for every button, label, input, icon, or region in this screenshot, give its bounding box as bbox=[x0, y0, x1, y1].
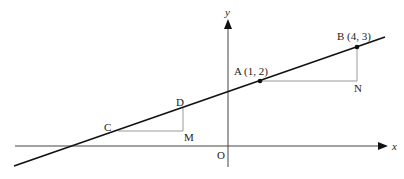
point-B bbox=[355, 45, 360, 50]
x-axis-label: x bbox=[391, 140, 397, 152]
point-B-label: B (4, 3) bbox=[337, 30, 371, 43]
point-N-label: N bbox=[354, 82, 362, 94]
point-M-label: M bbox=[184, 131, 194, 143]
coordinate-diagram: x y O A (1, 2) B (4, 3) N C D M bbox=[0, 0, 404, 179]
point-D-label: D bbox=[176, 96, 184, 108]
origin-label: O bbox=[217, 149, 225, 161]
y-axis-arrow-icon bbox=[224, 19, 232, 29]
y-axis-label: y bbox=[224, 6, 230, 18]
point-A-label: A (1, 2) bbox=[234, 65, 268, 78]
x-axis-arrow-icon bbox=[378, 142, 388, 150]
point-C-label: C bbox=[104, 121, 111, 133]
main-line bbox=[14, 37, 385, 166]
point-A bbox=[258, 79, 263, 84]
